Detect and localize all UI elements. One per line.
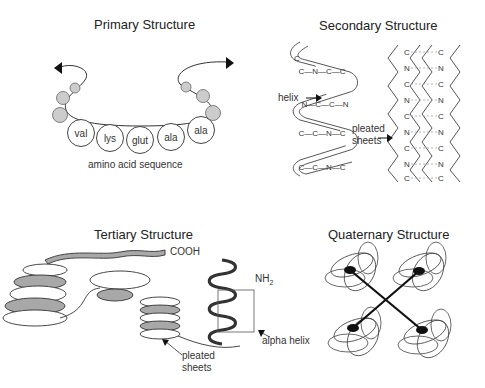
subunit-bottom-left: [328, 307, 385, 361]
quaternary-subunits-drawing: [0, 0, 485, 388]
subunit-node-bl: [347, 324, 359, 332]
subunit-node-tl: [344, 266, 356, 274]
subunit-node-tr: [413, 267, 425, 275]
subunit-node-br: [416, 326, 428, 334]
